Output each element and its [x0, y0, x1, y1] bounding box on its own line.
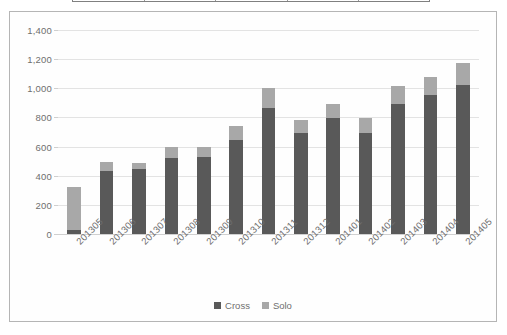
stacked-bar[interactable]	[67, 187, 81, 234]
y-axis-tick-mark	[54, 234, 58, 235]
bar-segment-solo[interactable]	[100, 162, 114, 171]
stacked-bar[interactable]	[262, 88, 276, 234]
bar-segment-cross[interactable]	[326, 118, 340, 234]
bar-segment-solo[interactable]	[229, 126, 243, 140]
stacked-bar[interactable]	[391, 86, 405, 234]
bar-segment-solo[interactable]	[359, 118, 373, 133]
bar-segment-cross[interactable]	[391, 104, 405, 234]
y-axis-tick-label: 1,000	[27, 83, 52, 94]
bar-segment-cross[interactable]	[262, 108, 276, 234]
bar-slot	[349, 30, 381, 234]
stacked-bar[interactable]	[456, 63, 470, 234]
bar-segment-solo[interactable]	[67, 187, 81, 230]
bar-slot	[188, 30, 220, 234]
bar-segment-cross[interactable]	[294, 133, 308, 234]
bar-slot	[220, 30, 252, 234]
legend-swatch-solo-icon	[262, 302, 269, 309]
table-column-divider	[287, 0, 288, 1]
stacked-bar[interactable]	[326, 104, 340, 234]
chart-legend: Cross Solo	[10, 300, 496, 311]
y-axis-tick-label: 800	[36, 112, 52, 123]
bar-segment-solo[interactable]	[424, 77, 438, 94]
y-axis-tick-label: 400	[36, 170, 52, 181]
legend-swatch-cross-icon	[214, 302, 221, 309]
bar-segment-cross[interactable]	[424, 95, 438, 234]
bar-segment-cross[interactable]	[456, 85, 470, 234]
legend-item-solo[interactable]: Solo	[262, 300, 292, 311]
bar-segment-solo[interactable]	[326, 104, 340, 118]
chart-container: 02004006008001,0001,2001,400 20130520130…	[9, 11, 497, 322]
bar-segment-solo[interactable]	[165, 147, 179, 159]
bar-segment-cross[interactable]	[359, 133, 373, 234]
bar-slot	[58, 30, 90, 234]
y-axis-tick-label: 600	[36, 141, 52, 152]
bar-segment-solo[interactable]	[294, 120, 308, 134]
bar-slot	[317, 30, 349, 234]
partial-table-strip	[72, 0, 430, 2]
table-column-divider	[215, 0, 216, 1]
bar-series-group	[58, 30, 479, 234]
y-axis-tick-label: 1,200	[27, 54, 52, 65]
bar-slot	[414, 30, 446, 234]
y-axis-tick-label: 1,400	[27, 25, 52, 36]
bar-slot	[252, 30, 284, 234]
bar-slot	[123, 30, 155, 234]
legend-label-cross: Cross	[225, 300, 250, 311]
stacked-bar[interactable]	[294, 120, 308, 234]
stacked-bar[interactable]	[424, 77, 438, 234]
table-column-divider	[358, 0, 359, 1]
table-column-divider	[144, 0, 145, 1]
bar-segment-solo[interactable]	[197, 147, 211, 156]
bar-slot	[155, 30, 187, 234]
bar-segment-solo[interactable]	[391, 86, 405, 104]
bar-segment-solo[interactable]	[456, 63, 470, 85]
bar-slot	[285, 30, 317, 234]
bar-slot	[382, 30, 414, 234]
stacked-bar[interactable]	[359, 118, 373, 234]
bar-slot	[447, 30, 479, 234]
plot-area: 02004006008001,0001,2001,400 20130520130…	[58, 30, 479, 234]
stacked-bar[interactable]	[229, 126, 243, 234]
legend-label-solo: Solo	[273, 300, 292, 311]
y-axis-tick-label: 200	[36, 199, 52, 210]
bar-slot	[90, 30, 122, 234]
legend-item-cross[interactable]: Cross	[214, 300, 250, 311]
bar-segment-solo[interactable]	[262, 88, 276, 108]
y-axis-tick-label: 0	[47, 229, 52, 240]
